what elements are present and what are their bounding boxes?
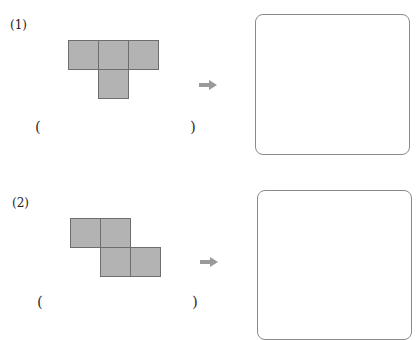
answer-open-paren: ( [35,118,41,136]
answer-close-paren: ) [190,118,196,136]
square [68,40,99,70]
problem-1-label: (1) [10,18,27,32]
drawing-box-2[interactable] [257,190,412,340]
problem-2-label: (2) [12,196,29,210]
answer-blank[interactable] [50,293,190,311]
answer-close-paren: ) [192,293,198,311]
answer-blank[interactable] [48,118,188,136]
square [98,69,129,99]
square [100,247,131,277]
square [130,247,161,277]
answer-open-paren: ( [37,293,43,311]
square [98,40,129,70]
right-arrow-icon [199,80,217,90]
square [128,40,159,70]
square [100,218,131,248]
right-arrow-icon [200,257,218,267]
drawing-box-1[interactable] [255,14,410,155]
square [70,218,101,248]
